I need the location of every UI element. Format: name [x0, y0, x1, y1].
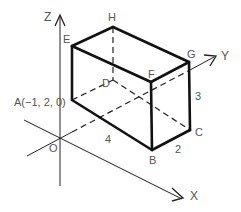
edge-EH: [72, 27, 113, 46]
axes: [24, 15, 216, 201]
vertex-label-g: G: [187, 49, 196, 60]
hidden-edges: [72, 27, 190, 132]
edge-BC: [152, 130, 190, 150]
y-axis-label: Y: [221, 51, 229, 62]
x-axis-neg: [24, 120, 60, 138]
y-axis-arrow-icon: [204, 55, 216, 66]
edge-GC: [189, 62, 190, 130]
dimension-bc-label: 2: [175, 144, 181, 155]
edge-FB: [151, 82, 152, 150]
vertex-label-e: E: [63, 34, 70, 45]
edge-FG: [151, 62, 189, 82]
vertex-label-c: C: [195, 127, 203, 138]
vertex-label-a: A(−1, 2, 0): [14, 97, 66, 108]
y-axis-hidden: [72, 70, 190, 132]
vertex-label-d: D: [102, 78, 110, 89]
x-axis-label: X: [190, 191, 198, 202]
dimension-ab-label: 4: [105, 134, 111, 145]
vertex-label-b: B: [149, 155, 156, 166]
vertex-label-h: H: [108, 12, 116, 23]
z-axis-label: Z: [44, 12, 51, 23]
origin-label: O: [49, 143, 58, 154]
edge-EF: [72, 46, 151, 82]
vertex-label-f: F: [148, 69, 155, 80]
visible-edges: [72, 27, 190, 150]
edge-AB: [72, 100, 152, 150]
x-axis: [60, 138, 182, 199]
edge-HG: [113, 27, 189, 62]
dimension-cg-label: 3: [195, 91, 201, 102]
